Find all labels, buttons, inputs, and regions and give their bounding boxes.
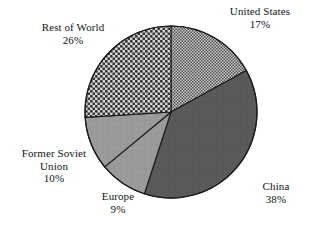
pie-slices bbox=[85, 26, 257, 198]
pie-label-united-states: United States 17% bbox=[212, 5, 308, 30]
pie-label-former-soviet-union-name-line1: Former Soviet bbox=[2, 147, 106, 160]
pie-chart: United States 17% Rest of World 26% Form… bbox=[0, 0, 312, 225]
pie-label-former-soviet-union: Former Soviet Union 10% bbox=[2, 147, 106, 185]
pie-label-rest-of-world-name: Rest of World bbox=[18, 21, 128, 34]
pie-label-rest-of-world-value: 26% bbox=[18, 34, 128, 47]
pie-label-china: China 38% bbox=[248, 180, 304, 205]
pie-label-former-soviet-union-value: 10% bbox=[2, 172, 106, 185]
pie-label-china-value: 38% bbox=[248, 193, 304, 206]
pie-label-europe-name: Europe bbox=[84, 190, 152, 203]
pie-label-china-name: China bbox=[248, 180, 304, 193]
pie-label-rest-of-world: Rest of World 26% bbox=[18, 21, 128, 46]
pie-label-united-states-value: 17% bbox=[212, 18, 308, 31]
pie-label-europe-value: 9% bbox=[84, 203, 152, 216]
pie-label-europe: Europe 9% bbox=[84, 190, 152, 215]
pie-label-former-soviet-union-name-line2: Union bbox=[2, 160, 106, 173]
pie-label-united-states-name: United States bbox=[212, 5, 308, 18]
